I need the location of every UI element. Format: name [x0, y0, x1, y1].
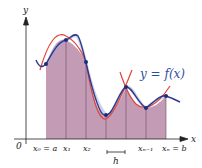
step-indicator: [107, 150, 125, 154]
label-xn-1: xₙ₋₁: [138, 144, 153, 153]
x-axis-arrow-icon: [180, 137, 188, 142]
curve-label: y = f(x): [139, 67, 185, 81]
step-label: h: [113, 156, 119, 166]
label-x1: x₁: [63, 144, 71, 153]
y-axis-arrow-icon: [24, 17, 29, 25]
x-axis-label: x: [191, 134, 196, 144]
label-x2: x₂: [83, 144, 91, 153]
origin-label: 0: [16, 141, 22, 151]
simpsons-rule-diagram: y x 0 y = f(x) x₀ = a x₁ x₂ xₙ₋₁ xₙ = b …: [0, 0, 202, 168]
label-xn-b: xₙ = b: [162, 144, 187, 153]
label-x0-a: x₀ = a: [33, 144, 58, 153]
y-axis-label: y: [22, 5, 29, 15]
